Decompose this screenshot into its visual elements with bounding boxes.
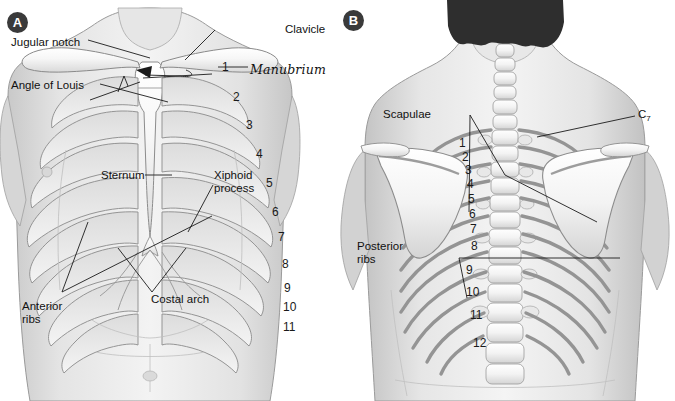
label-clavicle: Clavicle (285, 23, 325, 36)
rib-number-b-8: 8 (471, 239, 478, 253)
rib-number-b-10: 10 (466, 285, 479, 299)
rib-number-b-1: 1 (459, 136, 466, 150)
rib-number-b-9: 9 (466, 263, 473, 277)
panel-a-anterior: A Jugular notch Clavicle Angle of Louis … (0, 0, 340, 401)
nipple-left (42, 167, 52, 177)
label-c7-vertebra: C7 (638, 108, 651, 124)
label-anterior-ribs: Anterior ribs (22, 300, 68, 326)
rib-number-a-11: 11 (283, 320, 295, 334)
rib-number-b-4: 4 (467, 177, 474, 191)
rib-number-b-5: 5 (468, 192, 475, 206)
label-manubrium: Manubrium (250, 62, 326, 77)
label-scapulae: Scapulae (383, 108, 431, 121)
rib-number-b-11: 11 (470, 308, 482, 322)
panel-a-artwork (0, 0, 340, 401)
rib-number-b-12: 12 (473, 336, 486, 350)
rib-number-b-3: 3 (465, 163, 472, 177)
rib-number-a-7: 7 (278, 230, 285, 244)
label-costal-arch: Costal arch (151, 293, 209, 306)
rib-number-a-5: 5 (266, 176, 273, 190)
rib-number-a-1: 1 (222, 60, 229, 74)
umbilicus (143, 371, 157, 381)
rib-number-a-10: 10 (283, 300, 296, 314)
panel-marker-a: A (7, 12, 28, 33)
rib-number-a-8: 8 (282, 257, 289, 271)
c7-subscript: 7 (646, 114, 650, 123)
label-jugular-notch: Jugular notch (11, 36, 80, 49)
label-sternum: Sternum (101, 169, 144, 182)
label-posterior-ribs: Posterior ribs (357, 240, 417, 266)
rib-number-b-2: 2 (462, 150, 469, 164)
figure-canvas: A Jugular notch Clavicle Angle of Louis … (0, 0, 675, 401)
label-angle-of-louis: Angle of Louis (11, 79, 84, 92)
rib-number-b-6: 6 (469, 207, 476, 221)
rib-number-a-3: 3 (246, 118, 253, 132)
rib-number-a-4: 4 (256, 147, 263, 161)
panel-marker-b: B (343, 10, 364, 31)
rib-number-a-9: 9 (284, 281, 291, 295)
rib-number-a-2: 2 (233, 90, 240, 104)
rib-number-b-7: 7 (470, 222, 477, 236)
hair (447, 0, 564, 47)
panel-b-artwork (335, 0, 675, 401)
panel-b-posterior: B Scapulae C7 Posterior ribs 1 2 3 4 5 6… (335, 0, 675, 401)
rib-number-a-6: 6 (272, 205, 279, 219)
